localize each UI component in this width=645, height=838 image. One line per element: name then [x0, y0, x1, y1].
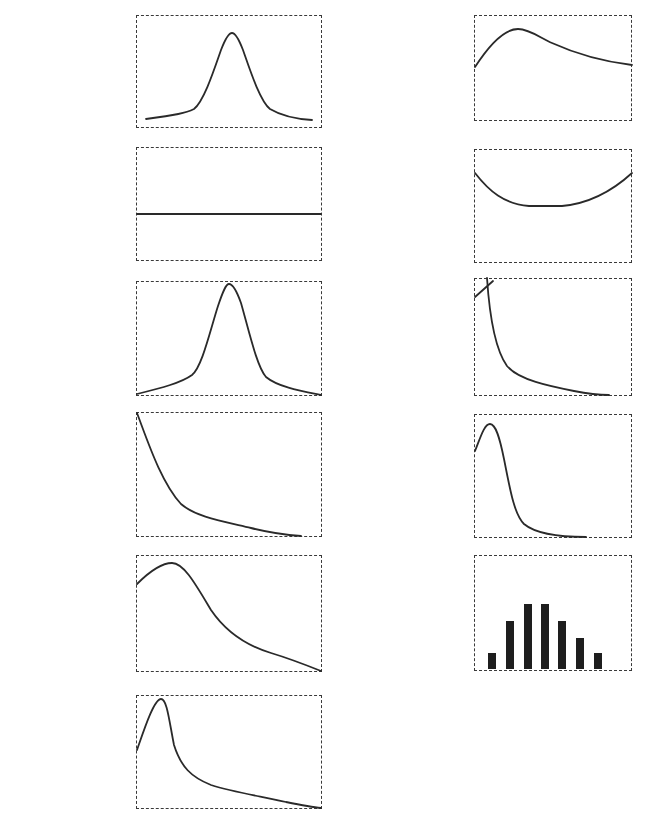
- plot-f: [474, 278, 632, 396]
- poisson-bar-4: [558, 621, 566, 669]
- poisson-bar-2: [524, 604, 532, 669]
- plot-uniform: [136, 147, 322, 261]
- plot-log-normal: [136, 695, 322, 809]
- poisson-bar-5: [576, 638, 584, 669]
- poisson-bar-1: [506, 621, 514, 669]
- weibull-curve: [474, 414, 632, 538]
- poisson-bars: [474, 555, 632, 671]
- normal-curve: [136, 15, 322, 128]
- log-normal-curve: [136, 695, 322, 809]
- plot-gamma: [136, 555, 322, 672]
- poisson-bar-0: [488, 653, 496, 669]
- poisson-bar-3: [541, 604, 549, 669]
- t-curve: [136, 281, 322, 396]
- exponential-curve: [136, 412, 322, 537]
- plot-t: [136, 281, 322, 396]
- plot-chi-square: [474, 15, 632, 121]
- poisson-bar-6: [594, 653, 602, 669]
- plot-beta: [474, 149, 632, 263]
- gamma-curve: [136, 555, 322, 672]
- uniform-curve: [136, 147, 322, 261]
- plot-weibull: [474, 414, 632, 538]
- beta-curve: [474, 149, 632, 263]
- f-curve: [474, 278, 632, 396]
- plot-poisson: [474, 555, 632, 671]
- plot-exponential: [136, 412, 322, 537]
- plot-normal: [136, 15, 322, 128]
- chi-square-curve: [474, 15, 632, 121]
